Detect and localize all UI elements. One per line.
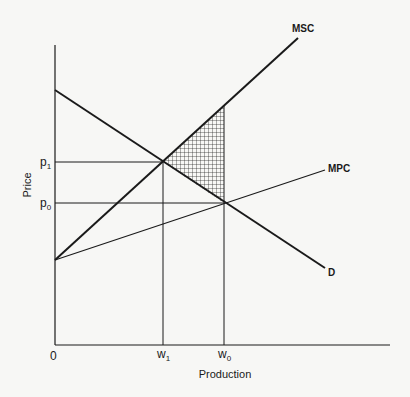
deadweight-loss-region [163, 106, 224, 203]
demand-label: D [328, 267, 335, 278]
origin-label: 0 [50, 349, 57, 363]
w1-tick-label: w1 [156, 347, 171, 363]
p1-tick-label: p1 [40, 155, 52, 171]
mpc-curve [55, 170, 325, 260]
w0-tick-label: w0 [217, 347, 232, 363]
demand-curve [55, 90, 325, 268]
economics-diagram: MSC MPC D p1 p0 0 w1 w0 Production Price [0, 0, 410, 397]
mpc-label: MPC [328, 163, 350, 174]
x-axis-title: Production [199, 368, 252, 380]
msc-label: MSC [292, 23, 314, 34]
p0-tick-label: p0 [40, 196, 52, 212]
y-axis-title: Price [21, 172, 33, 197]
